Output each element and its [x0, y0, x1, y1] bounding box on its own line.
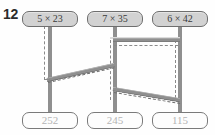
- top-node-3[interactable]: 6 × 42: [152, 11, 208, 27]
- connector-guide-1: [44, 26, 45, 80]
- connector-stem-1: [48, 25, 52, 114]
- bottom-node-3[interactable]: 115: [152, 112, 208, 129]
- connector-guide-upper: [114, 45, 178, 46]
- worksheet-diagram: 12 5 × 23 7 × 35 6 × 42 252 245 115: [0, 0, 215, 135]
- connector-guide-2: [110, 40, 111, 100]
- bottom-node-1-value: 252: [42, 115, 59, 126]
- connector-guide-3: [175, 40, 176, 98]
- problem-number: 12: [3, 7, 18, 21]
- top-node-1-label: 5 × 23: [37, 14, 63, 24]
- connector-junction-tick-1: [44, 79, 50, 80]
- bottom-node-2[interactable]: 245: [87, 112, 143, 129]
- bottom-node-1[interactable]: 252: [22, 112, 78, 129]
- connector-rail-upper: [113, 38, 180, 42]
- bottom-node-3-value: 115: [172, 115, 188, 126]
- top-node-3-label: 6 × 42: [167, 14, 193, 24]
- top-node-1[interactable]: 5 × 23: [22, 11, 78, 27]
- top-node-2[interactable]: 7 × 35: [87, 11, 143, 27]
- bottom-node-2-value: 245: [107, 115, 124, 126]
- top-node-2-label: 7 × 35: [102, 14, 128, 24]
